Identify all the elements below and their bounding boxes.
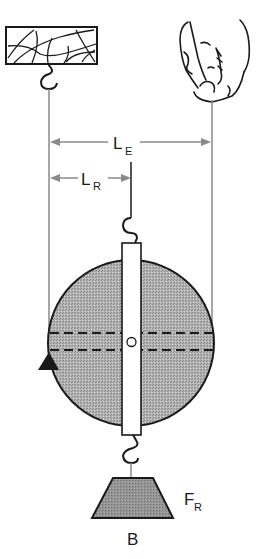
top-hook-icon xyxy=(123,218,137,243)
resistance-force-subscript: R xyxy=(194,501,202,513)
effort-arm-label: L xyxy=(113,134,122,153)
bottom-hook-icon xyxy=(123,435,138,478)
resistance-arm-subscript: R xyxy=(93,180,101,192)
weight-label: B xyxy=(127,530,138,549)
lever-diagram: L E L R F R B xyxy=(0,0,261,559)
pivot-hole xyxy=(127,338,136,347)
resistance-force-label: F xyxy=(184,490,194,509)
resistance-arm-label: L xyxy=(81,170,90,189)
trapezoid-weight-icon xyxy=(92,478,173,518)
ceiling-block-icon xyxy=(6,27,97,64)
effort-arm-subscript: E xyxy=(125,145,132,157)
effort-arm-dimension: L E xyxy=(50,134,211,157)
ceiling-hook-icon xyxy=(41,64,57,89)
hand-holding-string-icon xyxy=(180,20,249,102)
resistance-arm-dimension: L R xyxy=(50,170,131,192)
